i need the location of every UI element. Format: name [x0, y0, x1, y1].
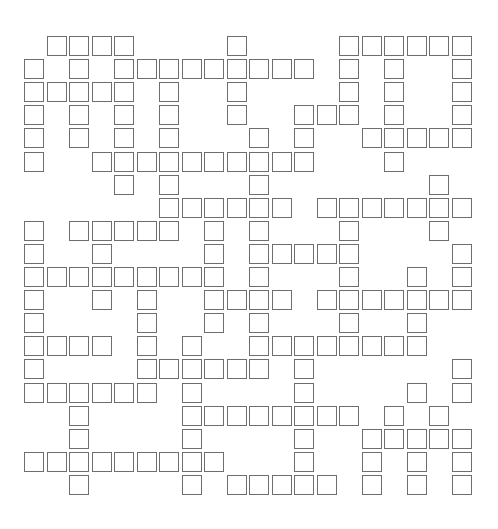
crossword-cell[interactable]: [227, 475, 247, 495]
crossword-cell[interactable]: [317, 336, 337, 356]
crossword-cell[interactable]: [24, 59, 44, 79]
crossword-cell[interactable]: [452, 198, 472, 218]
crossword-cell[interactable]: [159, 198, 179, 218]
crossword-cell[interactable]: [204, 406, 224, 426]
crossword-cell[interactable]: [114, 221, 134, 241]
crossword-cell[interactable]: [92, 221, 112, 241]
crossword-cell[interactable]: [362, 429, 382, 449]
crossword-cell[interactable]: [407, 452, 427, 472]
crossword-cell[interactable]: [339, 267, 359, 287]
crossword-cell[interactable]: [114, 452, 134, 472]
crossword-cell[interactable]: [159, 82, 179, 102]
crossword-cell[interactable]: [24, 313, 44, 333]
crossword-cell[interactable]: [272, 290, 292, 310]
crossword-cell[interactable]: [407, 290, 427, 310]
crossword-cell[interactable]: [272, 336, 292, 356]
crossword-cell[interactable]: [114, 267, 134, 287]
crossword-cell[interactable]: [452, 128, 472, 148]
crossword-cell[interactable]: [24, 383, 44, 403]
crossword-cell[interactable]: [137, 290, 157, 310]
crossword-cell[interactable]: [159, 59, 179, 79]
crossword-cell[interactable]: [339, 244, 359, 264]
crossword-cell[interactable]: [384, 36, 404, 56]
crossword-cell[interactable]: [317, 198, 337, 218]
crossword-cell[interactable]: [429, 175, 449, 195]
crossword-cell[interactable]: [362, 336, 382, 356]
crossword-cell[interactable]: [92, 267, 112, 287]
crossword-cell[interactable]: [339, 36, 359, 56]
crossword-cell[interactable]: [249, 244, 269, 264]
crossword-cell[interactable]: [204, 452, 224, 472]
crossword-cell[interactable]: [24, 105, 44, 125]
crossword-cell[interactable]: [429, 221, 449, 241]
crossword-cell[interactable]: [384, 290, 404, 310]
crossword-cell[interactable]: [384, 128, 404, 148]
crossword-cell[interactable]: [24, 128, 44, 148]
crossword-cell[interactable]: [249, 290, 269, 310]
crossword-cell[interactable]: [362, 128, 382, 148]
crossword-cell[interactable]: [362, 290, 382, 310]
crossword-cell[interactable]: [69, 406, 89, 426]
crossword-cell[interactable]: [294, 452, 314, 472]
crossword-cell[interactable]: [272, 59, 292, 79]
crossword-cell[interactable]: [159, 221, 179, 241]
crossword-cell[interactable]: [69, 452, 89, 472]
crossword-cell[interactable]: [182, 429, 202, 449]
crossword-cell[interactable]: [452, 290, 472, 310]
crossword-cell[interactable]: [69, 267, 89, 287]
crossword-cell[interactable]: [249, 359, 269, 379]
crossword-cell[interactable]: [204, 267, 224, 287]
crossword-cell[interactable]: [204, 359, 224, 379]
crossword-cell[interactable]: [362, 475, 382, 495]
crossword-cell[interactable]: [92, 152, 112, 172]
crossword-cell[interactable]: [114, 36, 134, 56]
crossword-cell[interactable]: [294, 383, 314, 403]
crossword-cell[interactable]: [137, 313, 157, 333]
crossword-cell[interactable]: [159, 105, 179, 125]
crossword-cell[interactable]: [24, 359, 44, 379]
crossword-cell[interactable]: [182, 152, 202, 172]
crossword-cell[interactable]: [24, 82, 44, 102]
crossword-cell[interactable]: [407, 383, 427, 403]
crossword-cell[interactable]: [317, 290, 337, 310]
crossword-cell[interactable]: [407, 429, 427, 449]
crossword-cell[interactable]: [384, 59, 404, 79]
crossword-cell[interactable]: [24, 336, 44, 356]
crossword-cell[interactable]: [294, 128, 314, 148]
crossword-cell[interactable]: [92, 452, 112, 472]
crossword-cell[interactable]: [137, 59, 157, 79]
crossword-cell[interactable]: [204, 244, 224, 264]
crossword-cell[interactable]: [384, 429, 404, 449]
crossword-cell[interactable]: [24, 152, 44, 172]
crossword-cell[interactable]: [294, 152, 314, 172]
crossword-cell[interactable]: [92, 82, 112, 102]
crossword-cell[interactable]: [429, 290, 449, 310]
crossword-cell[interactable]: [114, 105, 134, 125]
crossword-cell[interactable]: [317, 244, 337, 264]
crossword-cell[interactable]: [272, 406, 292, 426]
crossword-cell[interactable]: [249, 152, 269, 172]
crossword-cell[interactable]: [249, 267, 269, 287]
crossword-cell[interactable]: [429, 406, 449, 426]
crossword-cell[interactable]: [249, 221, 269, 241]
crossword-cell[interactable]: [362, 452, 382, 472]
crossword-cell[interactable]: [47, 383, 67, 403]
crossword-cell[interactable]: [227, 290, 247, 310]
crossword-cell[interactable]: [227, 406, 247, 426]
crossword-cell[interactable]: [249, 313, 269, 333]
crossword-cell[interactable]: [182, 475, 202, 495]
crossword-cell[interactable]: [92, 383, 112, 403]
crossword-cell[interactable]: [69, 429, 89, 449]
crossword-cell[interactable]: [114, 59, 134, 79]
crossword-cell[interactable]: [294, 475, 314, 495]
crossword-cell[interactable]: [182, 59, 202, 79]
crossword-cell[interactable]: [249, 406, 269, 426]
crossword-cell[interactable]: [227, 36, 247, 56]
crossword-cell[interactable]: [452, 359, 472, 379]
crossword-cell[interactable]: [182, 406, 202, 426]
crossword-cell[interactable]: [272, 152, 292, 172]
crossword-cell[interactable]: [452, 36, 472, 56]
crossword-cell[interactable]: [249, 198, 269, 218]
crossword-cell[interactable]: [407, 313, 427, 333]
crossword-cell[interactable]: [69, 36, 89, 56]
